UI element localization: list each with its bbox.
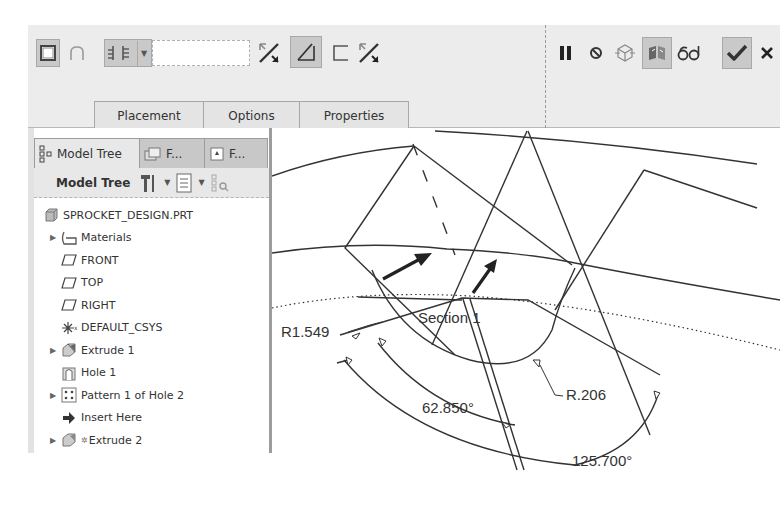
part-icon bbox=[42, 207, 60, 223]
ok-button[interactable] bbox=[722, 37, 752, 69]
dim-radius-206[interactable]: R.206 bbox=[566, 386, 606, 403]
cancel-button[interactable] bbox=[757, 39, 777, 67]
dim-radius-1549[interactable]: R1.549 bbox=[281, 323, 329, 340]
dim-angle-62[interactable]: 62.850° bbox=[422, 399, 474, 416]
model-tree-icon bbox=[39, 145, 53, 163]
depth-value-input[interactable] bbox=[152, 40, 250, 66]
no-preview-icon bbox=[589, 46, 603, 60]
tree-item-materials[interactable]: ▶ Materials bbox=[34, 227, 269, 250]
tree-show-icon[interactable] bbox=[176, 173, 192, 193]
datum-plane-icon bbox=[60, 252, 78, 268]
tab-favorites[interactable]: F... bbox=[204, 138, 268, 168]
chevron-down-icon[interactable]: ▼ bbox=[198, 178, 204, 187]
pitch-circle bbox=[272, 295, 780, 351]
verify-icon bbox=[677, 45, 701, 61]
pattern-icon bbox=[60, 387, 78, 403]
tree-item-extrude-1[interactable]: ▶ Extrude 1 bbox=[34, 339, 269, 362]
expand-arrow-icon[interactable]: ▶ bbox=[46, 391, 60, 400]
expand-arrow-icon[interactable]: ▶ bbox=[46, 436, 60, 445]
flip-material-side-icon bbox=[356, 40, 382, 66]
flip-depth-direction-button[interactable] bbox=[254, 39, 284, 67]
outer-arc-left bbox=[272, 146, 414, 176]
svg-text:x: x bbox=[74, 324, 78, 331]
tree-item-front[interactable]: FRONT bbox=[34, 249, 269, 272]
tooth-line-right bbox=[414, 146, 572, 265]
geometry-preview-button[interactable] bbox=[612, 39, 638, 67]
tab-properties[interactable]: Properties bbox=[299, 101, 409, 130]
tab-model-tree[interactable]: Model Tree bbox=[34, 138, 140, 168]
favorites-icon bbox=[209, 146, 225, 162]
root-arc bbox=[272, 245, 780, 300]
radial-line-2 bbox=[358, 297, 462, 300]
extrude-icon bbox=[60, 432, 78, 448]
datum-plane-icon bbox=[60, 275, 78, 291]
tree-filter-icon[interactable] bbox=[211, 173, 229, 193]
expand-arrow-icon[interactable]: ▶ bbox=[46, 233, 60, 242]
depth-option-icon bbox=[105, 43, 137, 63]
csys-icon: x bbox=[60, 320, 78, 336]
dim-angle-125[interactable]: 125.700° bbox=[572, 452, 632, 469]
tab-folder-browser[interactable]: F... bbox=[139, 138, 205, 168]
chevron-down-icon[interactable]: ▼ bbox=[137, 41, 150, 66]
close-icon bbox=[761, 47, 773, 59]
next-tooth-top bbox=[644, 170, 757, 208]
remove-material-icon bbox=[294, 40, 318, 64]
chevron-down-icon[interactable]: ▼ bbox=[164, 178, 170, 187]
tree-item-insert-here[interactable]: Insert Here bbox=[34, 407, 269, 430]
tree-item-hole-1[interactable]: Hole 1 bbox=[34, 362, 269, 385]
pause-button[interactable] bbox=[556, 39, 576, 67]
sketch-geometry[interactable]: R1.549 R.206 62.850° 125.700° Section 1 bbox=[272, 128, 780, 505]
thicken-sketch-icon bbox=[331, 43, 351, 63]
outer-arc-right bbox=[435, 131, 757, 164]
next-tooth-left bbox=[555, 170, 644, 310]
datum-plane-icon bbox=[60, 297, 78, 313]
verify-button[interactable] bbox=[676, 39, 702, 67]
flip-depth-direction-icon bbox=[256, 40, 282, 66]
extrude-dashboard: ▼ bbox=[28, 25, 780, 128]
flip-material-side-button[interactable] bbox=[354, 39, 384, 67]
surface-icon bbox=[68, 44, 86, 62]
ribbon-divider bbox=[545, 25, 546, 128]
model-tree-toolbar: Model Tree ▼ ▼ bbox=[34, 168, 269, 198]
model-tree-title: Model Tree bbox=[56, 176, 130, 190]
check-icon bbox=[726, 44, 748, 62]
depth-option-button[interactable]: ▼ bbox=[104, 39, 152, 67]
tree-item-pattern-1[interactable]: ▶ Pattern 1 of Hole 2 bbox=[34, 384, 269, 407]
expand-arrow-icon[interactable]: ▶ bbox=[46, 346, 60, 355]
angle-arc-125 bbox=[344, 360, 658, 465]
in-progress-icon: ✲ bbox=[81, 436, 88, 445]
tree-item-extrude-2[interactable]: ▶ ✲ Extrude 2 bbox=[34, 429, 269, 452]
tree-item-right[interactable]: RIGHT bbox=[34, 294, 269, 317]
tree-item-default-csys[interactable]: x DEFAULT_CSYS bbox=[34, 317, 269, 340]
folder-browser-icon bbox=[144, 146, 162, 162]
dashboard-tabs: Placement Options Properties bbox=[94, 101, 408, 130]
materials-icon bbox=[60, 230, 78, 246]
tab-options[interactable]: Options bbox=[203, 101, 300, 130]
geometry-preview-icon bbox=[614, 43, 636, 63]
surface-button[interactable] bbox=[66, 39, 88, 67]
tree-item-top[interactable]: TOP bbox=[34, 272, 269, 295]
solid-icon bbox=[39, 44, 57, 62]
insert-arrow-icon bbox=[60, 410, 78, 426]
model-tree: SPROCKET_DESIGN.PRT ▶ Materials FRONT TO… bbox=[34, 204, 269, 452]
tree-settings-icon[interactable] bbox=[140, 173, 158, 193]
tab-placement[interactable]: Placement bbox=[94, 101, 204, 130]
section-label: Section 1 bbox=[418, 309, 481, 326]
navigator-panel: Model Tree F... F... Model Tree ▼ bbox=[28, 128, 272, 453]
no-preview-button[interactable] bbox=[586, 39, 606, 67]
hole-icon bbox=[60, 365, 78, 381]
graphics-window[interactable]: R1.549 R.206 62.850° 125.700° Section 1 bbox=[272, 128, 780, 505]
feature-preview-button[interactable] bbox=[642, 37, 672, 69]
extrude-icon bbox=[60, 342, 78, 358]
tree-item-part[interactable]: SPROCKET_DESIGN.PRT bbox=[34, 204, 269, 227]
navigator-tabs: Model Tree F... F... bbox=[34, 138, 269, 168]
pause-icon bbox=[559, 45, 573, 61]
remove-material-button[interactable] bbox=[290, 36, 322, 68]
feature-preview-icon bbox=[646, 43, 668, 63]
thicken-sketch-button[interactable] bbox=[330, 39, 352, 67]
solid-button[interactable] bbox=[36, 39, 60, 67]
